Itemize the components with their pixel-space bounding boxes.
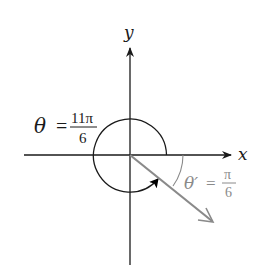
angle-diagram: y x θ = 11π 6 θ′ = π 6 bbox=[0, 0, 263, 274]
reference-angle-equals: = bbox=[206, 174, 216, 193]
y-axis-label: y bbox=[123, 22, 134, 42]
terminal-ray bbox=[130, 155, 212, 221]
reference-angle-denominator: 6 bbox=[225, 185, 232, 200]
reference-angle-symbol: θ′ bbox=[184, 173, 198, 193]
angle-symbol: θ bbox=[34, 114, 46, 138]
x-axis-label: x bbox=[238, 144, 248, 164]
angle-denominator: 6 bbox=[79, 130, 87, 146]
angle-numerator: 11π bbox=[71, 110, 93, 126]
reference-angle-arc bbox=[173, 155, 183, 186]
reference-angle-numerator: π bbox=[224, 167, 231, 182]
angle-equals: = bbox=[56, 115, 67, 137]
